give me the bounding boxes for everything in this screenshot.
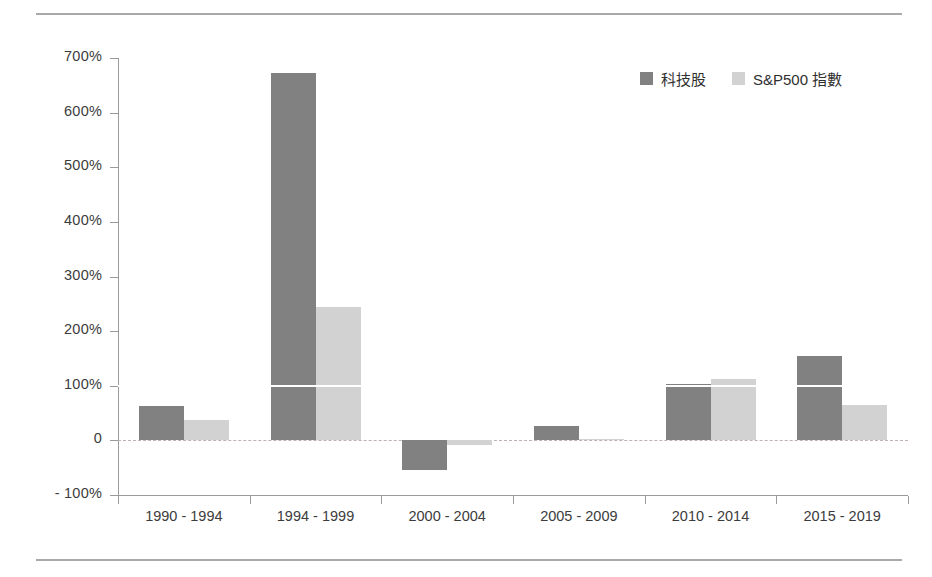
legend-swatch-tech [640,72,653,85]
gridline-100-percent [118,385,908,387]
legend-label-tech: 科技股 [661,68,706,89]
chart-figure: 700%600%500%400%300%200%100%0- 100% 1990… [0,0,932,577]
y-tick-label: 600% [32,103,102,119]
y-tick-label: 400% [32,212,102,228]
legend-swatch-sp500 [732,72,745,85]
x-tick [645,496,646,504]
y-tick [110,440,118,441]
x-tick [776,496,777,504]
y-tick-label: 500% [32,157,102,173]
x-tick [513,496,514,504]
y-tick-label: 300% [32,267,102,283]
bar[interactable] [316,307,361,441]
bar[interactable] [447,440,492,445]
y-tick-label: 700% [32,48,102,64]
y-tick [110,167,118,168]
x-tick-label: 2015 - 2019 [762,508,922,524]
x-tick [381,496,382,504]
bar[interactable] [666,384,711,440]
y-tick [110,495,118,496]
y-tick [110,222,118,223]
y-tick [110,277,118,278]
x-tick [118,496,119,504]
y-axis-line [118,58,119,495]
bar[interactable] [579,439,624,441]
bar[interactable] [842,405,887,440]
x-tick [908,496,909,504]
bar[interactable] [711,379,756,441]
y-tick-label: 100% [32,376,102,392]
chart-legend: 科技股 S&P500 指數 [640,68,842,89]
bar[interactable] [534,426,579,440]
bar[interactable] [797,356,842,441]
y-tick-label: 200% [32,321,102,337]
y-tick [110,113,118,114]
bottom-divider-rule [36,559,902,561]
y-tick-label: 0 [32,430,102,446]
bar[interactable] [184,420,229,440]
legend-label-sp500: S&P500 指數 [753,68,842,89]
legend-item-sp500[interactable]: S&P500 指數 [732,68,842,89]
legend-item-tech[interactable]: 科技股 [640,68,706,89]
y-tick [110,331,118,332]
y-tick [110,58,118,59]
bar[interactable] [139,406,184,440]
zero-baseline [118,440,908,441]
y-tick [110,386,118,387]
top-divider-rule [36,13,902,15]
bar[interactable] [402,440,447,470]
x-tick [250,496,251,504]
y-tick-label: - 100% [32,485,102,501]
